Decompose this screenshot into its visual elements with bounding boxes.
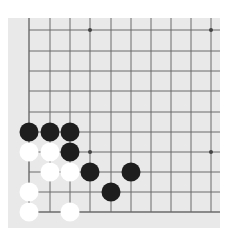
star-point-icon	[88, 150, 92, 154]
white-stone[interactable]	[61, 203, 80, 222]
star-point-icon	[88, 28, 92, 32]
white-stone[interactable]	[41, 163, 60, 182]
black-stone[interactable]	[61, 143, 80, 162]
go-board-grid[interactable]	[0, 0, 228, 239]
black-stone[interactable]	[102, 183, 121, 202]
black-stone[interactable]	[81, 163, 100, 182]
white-stone[interactable]	[20, 203, 39, 222]
black-stone[interactable]	[41, 123, 60, 142]
black-stone[interactable]	[61, 123, 80, 142]
white-stone[interactable]	[41, 143, 60, 162]
black-stone[interactable]	[122, 163, 141, 182]
white-stone[interactable]	[20, 143, 39, 162]
black-stone[interactable]	[20, 123, 39, 142]
star-point-icon	[209, 150, 213, 154]
grid-lines	[29, 18, 220, 212]
star-point-icon	[209, 28, 213, 32]
white-stone[interactable]	[20, 183, 39, 202]
white-stone[interactable]	[61, 163, 80, 182]
